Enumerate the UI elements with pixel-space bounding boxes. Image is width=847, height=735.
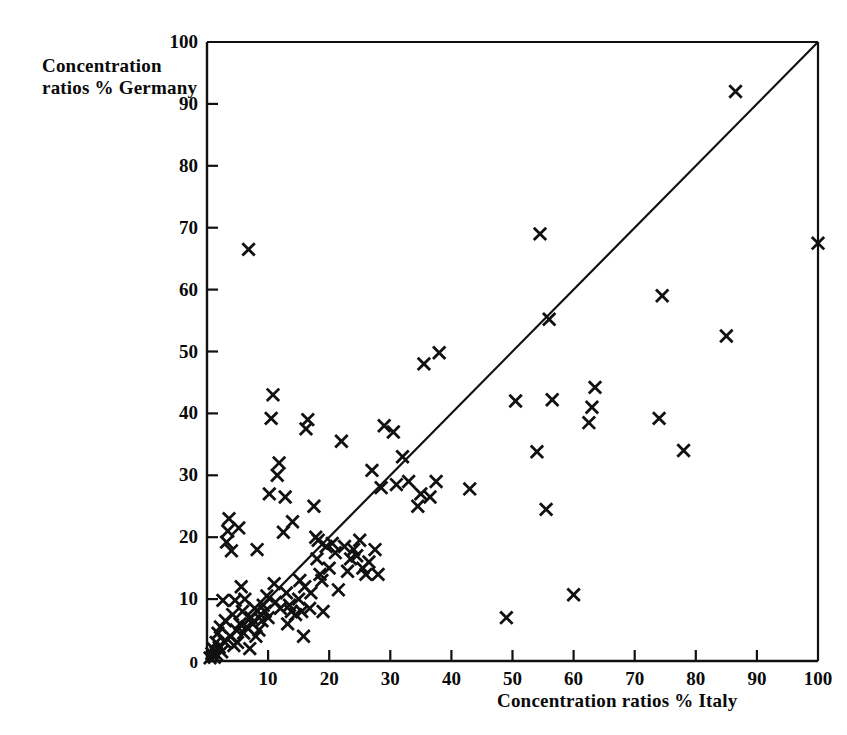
- data-point-marker: [263, 488, 275, 500]
- x-tick-label: 100: [804, 668, 833, 690]
- data-point-marker: [308, 500, 320, 512]
- data-point-marker: [677, 444, 689, 456]
- data-point-marker: [335, 435, 347, 447]
- data-point-marker: [653, 412, 665, 424]
- data-point-marker: [271, 469, 283, 481]
- data-point-marker: [509, 395, 521, 407]
- data-point-marker: [286, 516, 298, 528]
- y-tick-label: 30: [179, 464, 198, 486]
- data-point-marker: [430, 475, 442, 487]
- data-point-marker: [297, 630, 309, 642]
- data-point-marker: [273, 457, 285, 469]
- data-point-marker: [433, 347, 445, 359]
- y-axis-title: Concentrationratios % Germany: [42, 55, 197, 99]
- data-point-marker: [341, 565, 353, 577]
- data-point-marker: [390, 478, 402, 490]
- data-point-marker: [366, 464, 378, 476]
- data-point-marker: [412, 500, 424, 512]
- x-tick-label: 80: [686, 668, 705, 690]
- y-tick-label: 50: [179, 341, 198, 363]
- data-point-marker: [586, 401, 598, 413]
- data-point-marker: [402, 475, 414, 487]
- data-point-marker: [242, 243, 254, 255]
- 45-degree-line: [207, 42, 818, 661]
- data-point-marker: [583, 416, 595, 428]
- data-point-marker: [396, 451, 408, 463]
- y-axis-title-line-1: Concentration: [42, 55, 162, 76]
- x-tick-label: 30: [381, 668, 400, 690]
- y-tick-label: 10: [179, 588, 198, 610]
- y-tick-label: 20: [179, 526, 198, 548]
- scatter-plot-figure: Concentrationratios % Germany Concentrat…: [0, 0, 847, 735]
- data-point-marker: [500, 611, 512, 623]
- data-point-marker: [363, 556, 375, 568]
- data-point-marker: [317, 605, 329, 617]
- data-point-marker: [656, 290, 668, 302]
- data-point-marker: [217, 594, 229, 606]
- data-point-marker: [418, 358, 430, 370]
- y-tick-label: 0: [190, 653, 199, 673]
- data-point-marker: [332, 584, 344, 596]
- y-tick-label: 40: [179, 402, 198, 424]
- data-point-marker: [540, 503, 552, 515]
- y-tick-label: 100: [170, 31, 199, 53]
- x-axis-title: Concentration ratios % Italy: [497, 690, 737, 712]
- data-point-marker: [546, 394, 558, 406]
- data-point-marker: [305, 587, 317, 599]
- x-tick-label: 90: [747, 668, 766, 690]
- x-tick-label: 20: [320, 668, 339, 690]
- data-point-marker: [279, 491, 291, 503]
- diagonal-reference-line: [207, 42, 818, 661]
- data-point-marker: [720, 330, 732, 342]
- y-tick-label: 60: [179, 279, 198, 301]
- data-point-marker: [589, 381, 601, 393]
- data-point-marker: [567, 589, 579, 601]
- x-tick-label: 10: [259, 668, 278, 690]
- data-point-marker: [235, 581, 247, 593]
- y-tick-label: 90: [179, 93, 198, 115]
- data-point-marker: [531, 446, 543, 458]
- data-point-marker: [464, 483, 476, 495]
- data-point-marker: [251, 543, 263, 555]
- y-tick-label: 80: [179, 155, 198, 177]
- y-axis-title-line-2: ratios % Germany: [42, 77, 197, 98]
- x-tick-label: 60: [564, 668, 583, 690]
- data-point-marker: [534, 228, 546, 240]
- data-point-marker: [372, 568, 384, 580]
- data-point-marker: [729, 85, 741, 97]
- x-tick-label: 70: [625, 668, 644, 690]
- data-point-marker: [268, 577, 280, 589]
- data-point-marker: [280, 587, 292, 599]
- data-points: [204, 85, 824, 664]
- x-tick-label: 50: [503, 668, 522, 690]
- x-tick-label: 40: [442, 668, 461, 690]
- data-point-marker: [244, 642, 256, 654]
- data-point-marker: [265, 412, 277, 424]
- data-point-marker: [369, 543, 381, 555]
- data-point-marker: [222, 525, 234, 537]
- data-point-marker: [311, 553, 323, 565]
- plot-canvas: [0, 0, 847, 735]
- y-tick-label: 70: [179, 217, 198, 239]
- data-point-marker: [267, 389, 279, 401]
- data-point-marker: [233, 522, 245, 534]
- data-point-marker: [302, 413, 314, 425]
